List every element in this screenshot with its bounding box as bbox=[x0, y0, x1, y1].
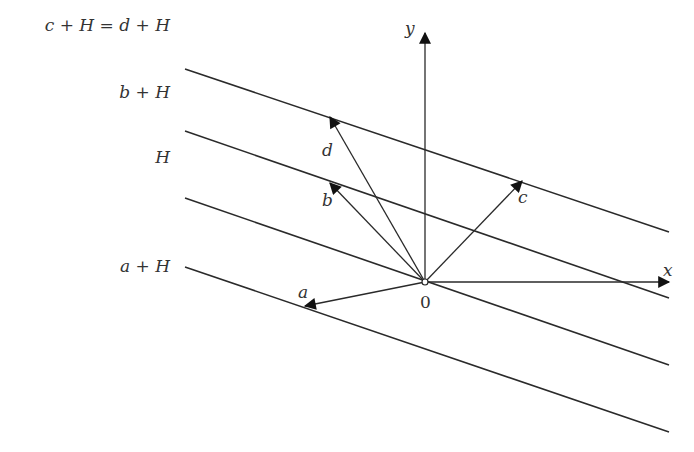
line-b-plus-H bbox=[185, 131, 669, 298]
line-c-plus-H bbox=[185, 69, 669, 232]
diagram-canvas: c + H = d + H b + H H a + H y x 0 a b c … bbox=[0, 0, 694, 452]
label-vector-a: a bbox=[298, 284, 308, 301]
vector-a bbox=[305, 282, 425, 306]
label-line-a-plus-H: a + H bbox=[120, 258, 170, 275]
label-y-axis: y bbox=[405, 20, 415, 37]
diagram-svg bbox=[0, 0, 694, 452]
label-vector-b: b bbox=[322, 192, 333, 209]
label-x-axis: x bbox=[663, 262, 673, 279]
label-line-c-plus-H: c + H = d + H bbox=[45, 17, 170, 34]
vector-d bbox=[330, 117, 425, 282]
label-line-b-plus-H: b + H bbox=[119, 84, 170, 101]
origin-point bbox=[422, 279, 428, 285]
vector-c bbox=[425, 181, 522, 282]
label-origin: 0 bbox=[420, 294, 431, 311]
label-vector-d: d bbox=[322, 142, 333, 159]
label-vector-c: c bbox=[518, 189, 528, 206]
label-line-H: H bbox=[155, 149, 170, 166]
